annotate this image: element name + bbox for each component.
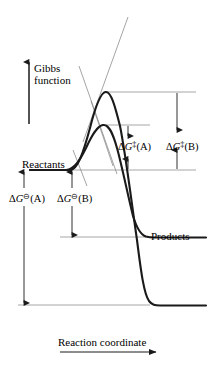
activation-energy-a-label: ΔG‡(A) xyxy=(118,140,151,153)
reactants-label: Reactants xyxy=(22,158,65,170)
delta-symbol: Δ xyxy=(166,141,173,152)
reaction-profile-figure: Gibbs function Reactants Products Reacti… xyxy=(0,0,216,368)
argument: (B) xyxy=(184,141,198,152)
products-label: Products xyxy=(151,230,190,242)
argument: (A) xyxy=(136,141,151,152)
y-axis-label: Gibbs function xyxy=(34,62,71,87)
measure-arrows xyxy=(24,62,177,352)
x-axis-label: Reaction coordinate xyxy=(58,336,146,348)
standard-gibbs-a-label: ΔG⊖(A) xyxy=(9,192,45,205)
delta-symbol: Δ xyxy=(9,193,16,204)
delta-symbol: Δ xyxy=(57,193,64,204)
argument: (A) xyxy=(30,193,45,204)
standard-gibbs-b-label: ΔG⊖(B) xyxy=(57,192,92,205)
delta-symbol: Δ xyxy=(118,141,125,152)
activation-energy-b-label: ΔG‡(B) xyxy=(166,140,198,153)
left-ascending-asymptote-line xyxy=(79,66,117,174)
energy-profile-svg xyxy=(0,0,216,368)
argument: (B) xyxy=(78,193,92,204)
y-axis-label-line2: function xyxy=(34,74,71,86)
y-axis-label-line1: Gibbs xyxy=(34,62,71,74)
right-descending-asymptote-line xyxy=(83,17,128,142)
